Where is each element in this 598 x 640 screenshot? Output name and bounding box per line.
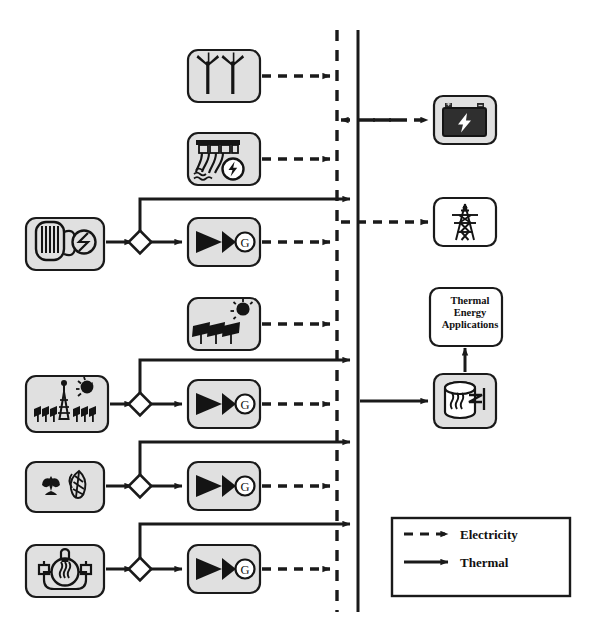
source-solar-pv[interactable] [188,298,260,350]
generator-label: G [240,480,249,494]
generator-label: G [240,563,249,577]
tea-line-2: Energy [434,307,506,319]
converter-turbine-geothermal[interactable]: G [188,545,260,593]
electricity-flow-arrows [262,76,330,569]
thermal-flow-arrows [106,199,465,569]
thermal-energy-applications-label: Thermal Energy Applications [434,295,506,331]
generator-label: G [240,236,249,250]
converter-turbine-biomass[interactable]: G [188,462,260,510]
flow-splitter-node [129,231,152,254]
source-wind-turbine[interactable] [188,50,260,102]
legend-label-thermal: Thermal [460,556,570,571]
tea-line-1: Thermal [434,295,506,307]
source-solar-tower[interactable] [26,376,108,432]
flow-splitter-node [129,558,152,581]
converter-turbine-solar[interactable]: G [188,380,260,428]
sink-thermal-storage[interactable] [434,374,496,428]
source-geothermal[interactable] [26,545,104,597]
sink-battery-storage[interactable] [434,96,496,144]
flow-splitter-node [129,393,152,416]
diagram-canvas: G [0,0,598,640]
source-hydro-dam[interactable] [188,133,260,185]
legend-label-electricity: Electricity [460,528,570,543]
generator-label: G [240,398,249,412]
source-nuclear-reactor[interactable] [26,218,104,270]
tea-line-3: Applications [434,319,506,331]
sink-transmission-grid[interactable] [434,198,496,246]
flow-splitter-node [129,475,152,498]
source-biomass[interactable] [26,462,104,512]
converter-turbine-nuclear[interactable]: G [188,218,260,266]
energy-system-diagram: G [0,0,598,640]
battery-storage-icon [443,102,486,136]
